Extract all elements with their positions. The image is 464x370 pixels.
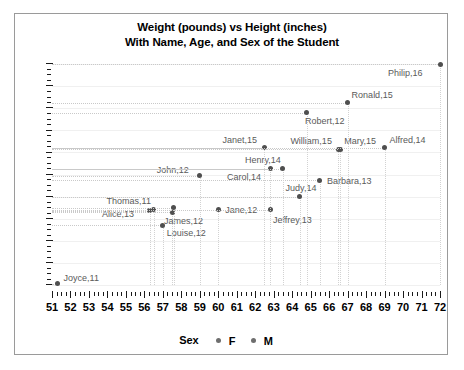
y-tick-minor (47, 185, 51, 186)
x-tick-minor (361, 292, 362, 296)
x-tick-major (52, 291, 53, 298)
x-tick-minor (264, 292, 265, 296)
point-drop-line (307, 113, 308, 285)
data-point-label: Robert,12 (305, 116, 345, 126)
x-tick-minor (66, 292, 67, 296)
x-tick-major (422, 291, 423, 298)
data-point-barbara[interactable] (317, 178, 322, 183)
x-tick-minor (121, 292, 122, 296)
point-drop-line (348, 103, 349, 285)
data-point-label: Carol,14 (227, 172, 261, 182)
x-tick-minor (246, 292, 247, 296)
y-tick-minor (47, 135, 51, 136)
point-leader-line (52, 64, 440, 65)
y-tick-minor (47, 246, 51, 247)
x-tick-minor (408, 292, 409, 296)
x-tick-minor (357, 292, 358, 296)
x-tick-minor (306, 292, 307, 296)
x-tick-major (89, 291, 90, 298)
y-tick-minor (47, 235, 51, 236)
x-tick-major (200, 291, 201, 298)
y-tick-minor (47, 97, 51, 98)
x-tick-minor (283, 292, 284, 296)
gridline-horizontal (52, 152, 440, 153)
x-tick-major (329, 291, 330, 298)
y-tick-minor (47, 69, 51, 70)
x-tick-minor (371, 292, 372, 296)
x-tick-minor (149, 292, 150, 296)
legend-item-m[interactable]: M (251, 334, 273, 347)
data-point-philip[interactable] (438, 62, 443, 67)
x-tick-major (181, 291, 182, 298)
x-tick-minor (334, 292, 335, 296)
y-tick-minor (47, 102, 51, 103)
point-leader-line (52, 176, 200, 177)
data-point-label: James,12 (164, 216, 203, 226)
legend-label-f: F (229, 335, 236, 347)
point-leader-line (52, 212, 172, 213)
plot-area: Joyce,11Louise,12Alice,13Thomas,11James,… (52, 64, 440, 285)
x-tick-minor (343, 292, 344, 296)
y-tick-minor (47, 163, 51, 164)
x-tick-minor (135, 292, 136, 296)
x-tick-minor (84, 292, 85, 296)
point-drop-line (174, 208, 175, 285)
x-tick-minor (131, 292, 132, 296)
point-drop-line (163, 225, 164, 285)
x-tick-minor (158, 292, 159, 296)
point-drop-line (338, 149, 339, 285)
point-drop-line (264, 148, 265, 285)
legend-item-f[interactable]: F (216, 334, 236, 347)
x-tick-minor (394, 292, 395, 296)
y-tick-minor (47, 119, 51, 120)
point-drop-line (320, 180, 321, 285)
data-point-label: Henry,14 (245, 155, 281, 165)
y-tick-minor (47, 190, 51, 191)
y-tick-minor (47, 168, 51, 169)
x-tick-minor (260, 292, 261, 296)
x-tick-minor (98, 292, 99, 296)
x-tick-minor (398, 292, 399, 296)
x-tick-major (292, 291, 293, 298)
y-tick-minor (47, 257, 51, 258)
x-tick-minor (338, 292, 339, 296)
point-leader-line (52, 169, 283, 170)
x-tick-minor (426, 292, 427, 296)
point-leader-line (52, 149, 340, 150)
point-leader-line (52, 225, 163, 226)
point-leader-line (52, 180, 320, 181)
x-tick-minor (352, 292, 353, 296)
x-tick-minor (380, 292, 381, 296)
x-tick-major (274, 291, 275, 298)
data-point-label: Jeffrey,13 (273, 215, 312, 225)
y-tick-minor (47, 157, 51, 158)
y-tick-minor (47, 273, 51, 274)
y-tick-minor (47, 279, 51, 280)
x-tick-minor (417, 292, 418, 296)
y-tick-minor (47, 146, 51, 147)
data-point-label: Judy,14 (286, 183, 317, 193)
x-tick-minor (172, 292, 173, 296)
legend-title: Sex (179, 334, 199, 346)
point-drop-line (340, 149, 341, 285)
x-tick-minor (241, 292, 242, 296)
x-tick-minor (57, 292, 58, 296)
x-tick-minor (431, 292, 432, 296)
x-tick-major (311, 291, 312, 298)
x-tick-minor (94, 292, 95, 296)
x-tick-major (348, 291, 349, 298)
gridline-horizontal (52, 86, 440, 87)
data-point-label: Ronald,15 (352, 90, 393, 100)
y-tick-minor (47, 213, 51, 214)
x-tick-minor (154, 292, 155, 296)
gridline-horizontal (52, 108, 440, 109)
point-drop-line (270, 169, 271, 285)
x-tick-label: 72 (425, 301, 455, 313)
gridline-horizontal (52, 263, 440, 264)
x-tick-minor (117, 292, 118, 296)
y-tick-minor (47, 207, 51, 208)
x-tick-minor (61, 292, 62, 296)
gridline-horizontal (52, 130, 440, 131)
x-tick-major (107, 291, 108, 298)
data-point-label: Joyce,11 (64, 273, 99, 283)
